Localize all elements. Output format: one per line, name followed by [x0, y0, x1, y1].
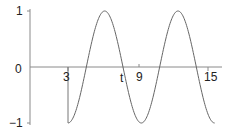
y-label-0: 0 — [15, 63, 22, 75]
x-axis-title-t: t — [120, 72, 123, 84]
x-label-3: 3 — [63, 71, 70, 83]
x-label-9: 9 — [136, 71, 143, 83]
y-label-minus-1: −1 — [9, 117, 23, 129]
x-label-15: 15 — [204, 71, 217, 83]
sinusoid-chart — [0, 0, 232, 135]
y-label-1: 1 — [16, 5, 23, 17]
